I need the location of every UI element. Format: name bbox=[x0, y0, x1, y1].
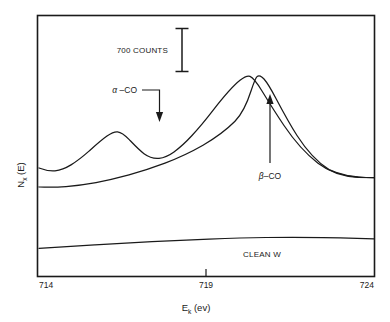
scale-bar-label: 700 COUNTS bbox=[117, 46, 168, 55]
svg-text:Ek (ev): Ek (ev) bbox=[182, 302, 211, 315]
y-axis-title-unit: (E) bbox=[15, 162, 26, 177]
x-tick-label-724: 724 bbox=[360, 280, 374, 290]
svg-text:Nx (E): Nx (E) bbox=[15, 162, 28, 187]
beta-co-label: β–CO bbox=[258, 171, 282, 181]
clean-tungsten-label: CLEAN W bbox=[243, 250, 281, 259]
x-axis-title-unit: (ev) bbox=[191, 302, 210, 313]
auger-spectrum-figure: 714 719 724 Ek (ev) Nx (E) 700 COUNTS α … bbox=[0, 0, 390, 322]
figure-background bbox=[0, 0, 390, 322]
x-tick-label-714: 714 bbox=[39, 280, 53, 290]
plot-canvas: 714 719 724 Ek (ev) Nx (E) 700 COUNTS α … bbox=[0, 0, 390, 322]
y-axis-title: Nx (E) bbox=[15, 162, 28, 187]
x-tick-label-719: 719 bbox=[199, 280, 213, 290]
alpha-co-label: α –CO bbox=[112, 85, 137, 95]
x-axis-title: Ek (ev) bbox=[182, 302, 211, 315]
